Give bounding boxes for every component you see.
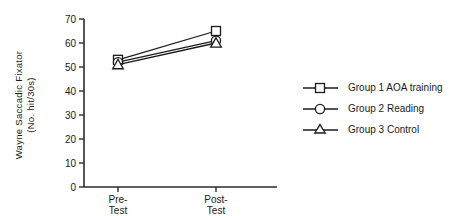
y-tick-label-40: 40 — [65, 86, 77, 97]
line-chart: Wayne Saccadic Fixator (No. hit/30s) 0 1… — [0, 0, 464, 216]
legend-label-1: Group 1 AOA training — [348, 82, 443, 93]
series-2-line — [118, 41, 216, 63]
legend-item-group-1[interactable]: Group 1 AOA training — [303, 82, 443, 93]
y-tick-label-60: 60 — [65, 38, 77, 49]
legend-label-3: Group 3 Control — [348, 124, 419, 135]
x-tick-label-post-test-line1: Post- — [204, 194, 227, 205]
series-1-marker-post-test — [212, 27, 221, 36]
y-axis-title-line2: (No. hit/30s) — [25, 77, 36, 133]
square-marker-icon — [316, 84, 325, 93]
chart-figure: Wayne Saccadic Fixator (No. hit/30s) 0 1… — [0, 0, 464, 216]
x-axis-ticks: Pre- Test Post- Test — [109, 187, 228, 216]
y-axis-title-line1: Wayne Saccadic Fixator — [13, 51, 24, 160]
y-tick-label-70: 70 — [65, 14, 77, 25]
y-tick-label-20: 20 — [65, 134, 77, 145]
series-3-line — [118, 43, 216, 65]
x-tick-label-pre-test-line2: Test — [109, 205, 128, 216]
y-tick-label-0: 0 — [70, 182, 76, 193]
series-group-3-control — [113, 38, 222, 69]
legend-item-group-2[interactable]: Group 2 Reading — [303, 103, 424, 114]
triangle-marker-icon — [315, 125, 325, 133]
series-1-line — [118, 31, 216, 60]
legend-item-group-3[interactable]: Group 3 Control — [303, 124, 419, 135]
circle-marker-icon — [315, 104, 324, 113]
legend-label-2: Group 2 Reading — [348, 103, 424, 114]
x-tick-label-pre-test-line1: Pre- — [109, 194, 128, 205]
x-tick-label-post-test-line2: Test — [207, 205, 226, 216]
y-tick-label-50: 50 — [65, 62, 77, 73]
chart-legend: Group 1 AOA training Group 2 Reading Gro… — [303, 82, 443, 135]
y-axis-ticks: 0 10 20 30 40 50 60 70 — [65, 14, 84, 193]
y-tick-label-10: 10 — [65, 158, 77, 169]
y-tick-label-30: 30 — [65, 110, 77, 121]
y-axis-title: Wayne Saccadic Fixator (No. hit/30s) — [13, 51, 36, 160]
